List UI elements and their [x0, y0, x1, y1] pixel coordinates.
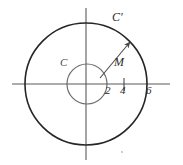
stray-dot — [121, 151, 123, 153]
figure-canvas: C' C M 2 4 6 — [0, 0, 183, 165]
label-axis-tick-6: 6 — [146, 85, 152, 96]
diagram-svg — [0, 0, 183, 165]
label-outer-circle-c-prime: C' — [112, 11, 123, 23]
label-axis-tick-2: 2 — [105, 85, 111, 96]
label-inner-circle-c: C — [60, 57, 67, 68]
label-vector-m: M — [114, 56, 124, 68]
label-axis-tick-4: 4 — [120, 85, 126, 96]
